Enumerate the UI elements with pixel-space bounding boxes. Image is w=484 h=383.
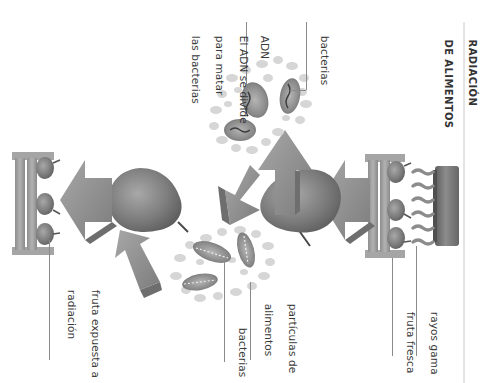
diagram-title: RADIACIÓN DE ALIMENTOS xyxy=(430,24,484,128)
label-irradiated-fruit: fruta expuesta a radiación xyxy=(54,276,114,378)
pear-icon xyxy=(260,169,341,246)
label-bacteria-top: bacterias xyxy=(307,22,343,85)
fruit-crate-left-icon xyxy=(12,152,60,255)
radiation-source-icon xyxy=(433,166,459,246)
title-line-1: RADIACIÓN xyxy=(467,40,478,107)
title-line-2: DE ALIMENTOS xyxy=(443,40,454,129)
label-fresh-fruit: fruta fresca xyxy=(393,298,429,373)
gamma-wave-icon xyxy=(413,170,433,244)
leader-bacteria-top-h xyxy=(290,90,306,91)
fruit-crate-right-icon xyxy=(365,154,411,258)
label-dna-note: El ADN se divide para matar las bacteria… xyxy=(178,22,262,124)
leader-irradiated-fruit xyxy=(49,240,50,360)
label-bacteria-bottom: bacterias xyxy=(225,314,261,377)
arrow-icon xyxy=(218,165,260,225)
arrow-icon xyxy=(115,230,162,298)
pear-icon xyxy=(109,168,188,232)
arrow-icon xyxy=(60,160,117,244)
